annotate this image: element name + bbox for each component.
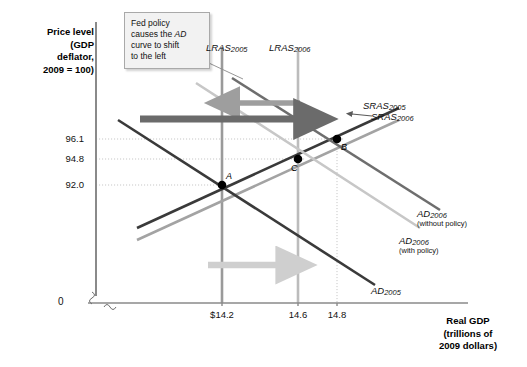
curve-label-lras-2005-name: LRAS [206, 42, 231, 53]
y-tick-label-92-0: 92.0 [48, 179, 84, 190]
curve-label-ad-2006-without-name: AD [417, 208, 430, 219]
y-axis-title: Price level (GDP deflator, 2009 = 100) [14, 26, 94, 76]
y-axis-title-line-1: Price level [14, 26, 94, 39]
callout-fed-policy: Fed policy causes the AD curve to shift … [124, 12, 210, 69]
y-axis-title-line-3: deflator, [14, 51, 94, 64]
curve-sras-2006 [137, 120, 399, 240]
point-label-a: A [226, 171, 232, 181]
curve-label-sras-2006: SRAS2006 [371, 111, 414, 123]
y-axis-title-line-2: (GDP [14, 39, 94, 52]
curve-label-ad-2006-without-policy: AD2006 (without policy) [417, 208, 467, 228]
curve-label-ad-2005-sub: 2005 [384, 288, 401, 297]
curve-label-sras-2005-name: SRAS [363, 100, 389, 111]
curve-label-lras-2006: LRAS2006 [269, 42, 311, 54]
callout-line-2-pre: causes the [131, 29, 174, 39]
curve-label-sras-2006-sub: 2006 [397, 114, 414, 123]
curve-label-lras-2006-name: LRAS [269, 42, 294, 53]
point-label-b: B [341, 142, 347, 152]
callout-line-1: Fed policy [131, 18, 170, 28]
arrow-sras-label-pointer [352, 114, 372, 116]
x-tick-label-14-8: 14.8 [317, 309, 357, 320]
curve-label-sras-2006-name: SRAS [371, 111, 397, 122]
curve-label-lras-2005: LRAS2005 [206, 42, 248, 54]
y-tick-label-94-8: 94.8 [48, 153, 84, 164]
curve-label-ad-2006-with-policy: AD2006 (with policy) [399, 235, 439, 255]
point-a-marker [218, 181, 227, 190]
curve-label-lras-2005-sub: 2005 [231, 45, 248, 54]
x-axis-title: Real GDP (trillions of 2009 dollars) [414, 315, 522, 353]
x-axis-title-line-2: (trillions of [414, 328, 522, 341]
curve-label-ad-2005-name: AD [371, 285, 384, 296]
point-c-marker [294, 155, 303, 164]
point-label-c: C [291, 163, 298, 173]
callout-line-2-emphasis: AD [174, 29, 186, 39]
callout-line-4: to the left [131, 51, 166, 61]
x-tick-label-14-2: $14.2 [199, 309, 245, 320]
y-axis-title-line-4: 2009 = 100) [14, 64, 94, 77]
ad-as-diagram: Price level (GDP deflator, 2009 = 100) R… [0, 0, 527, 367]
curve-label-ad-2006-with-note: (with policy) [399, 246, 439, 255]
curve-label-ad-2006-with-name: AD [399, 235, 412, 246]
curve-label-lras-2006-sub: 2006 [294, 45, 311, 54]
curve-ad-2006-without-policy [232, 78, 440, 210]
callout-line-3: curve to shift [131, 40, 179, 50]
curve-label-ad-2006-without-note: (without policy) [417, 219, 467, 228]
point-b-marker [333, 135, 342, 144]
curve-sras-2005 [137, 108, 399, 228]
x-axis-title-line-3: 2009 dollars) [414, 340, 522, 353]
y-tick-label-96-1: 96.1 [48, 133, 84, 144]
x-tick-label-14-6: 14.6 [278, 309, 318, 320]
curve-label-ad-2005: AD2005 [371, 285, 401, 297]
x-axis-title-line-1: Real GDP [414, 315, 522, 328]
x-axis-break-mark [104, 305, 116, 310]
origin-label: 0 [58, 296, 64, 307]
